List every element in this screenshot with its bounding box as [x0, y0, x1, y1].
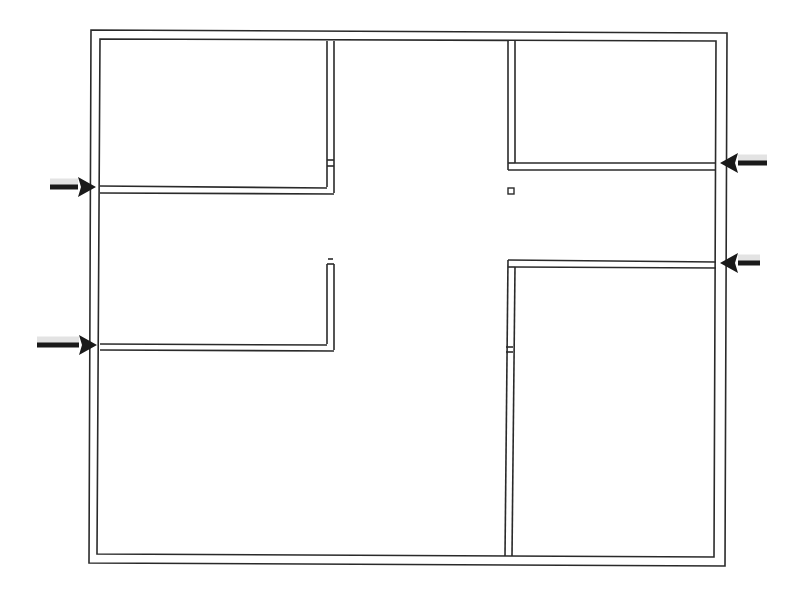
wall-right-horizontal-lower — [508, 260, 716, 268]
interior-walls — [100, 41, 716, 556]
floor-plan-canvas — [0, 0, 798, 592]
column-square — [508, 188, 514, 194]
outer-wall-outline — [89, 30, 727, 566]
indicator-arrows — [37, 153, 767, 355]
outer-wall-inner-outline — [97, 39, 716, 557]
wall-right-vertical-lower — [505, 260, 515, 556]
wall-right-vertical-upper — [508, 41, 515, 170]
arrow-left-lower-icon — [37, 335, 97, 355]
wall-right-horizontal-upper — [508, 163, 716, 170]
structural-column — [508, 188, 514, 194]
wall-left-horizontal-lower — [100, 344, 334, 351]
wall-left-vertical-lower — [327, 259, 334, 350]
outer-wall — [89, 30, 727, 566]
arrow-left-upper-icon — [50, 177, 96, 197]
wall-left-horizontal-upper — [100, 186, 334, 194]
wall-left-vertical-upper — [327, 41, 334, 193]
